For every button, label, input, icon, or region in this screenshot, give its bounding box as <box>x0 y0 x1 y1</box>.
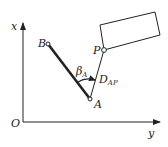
rigid-body-rectangle <box>100 12 160 50</box>
point-b-marker <box>46 42 50 46</box>
horizontal-axis-label: y <box>147 127 155 140</box>
point-p-label: P <box>92 44 101 57</box>
origin-label: O <box>11 117 20 130</box>
distance-subscript: AP <box>107 79 118 87</box>
point-b-label: B <box>37 37 46 50</box>
point-p-marker <box>102 48 107 53</box>
distance-symbol: D <box>98 73 108 86</box>
distance-label: DAP <box>98 73 118 87</box>
diagram-canvas: x y O B A P βA DAP <box>0 0 168 147</box>
point-a-label: A <box>93 98 102 111</box>
angle-arc-icon <box>78 79 95 82</box>
angle-label: βA <box>75 65 87 79</box>
vertical-axis-label: x <box>11 20 18 33</box>
angle-subscript: A <box>81 71 87 79</box>
angle-symbol: β <box>75 65 82 78</box>
point-a-marker <box>88 97 92 101</box>
